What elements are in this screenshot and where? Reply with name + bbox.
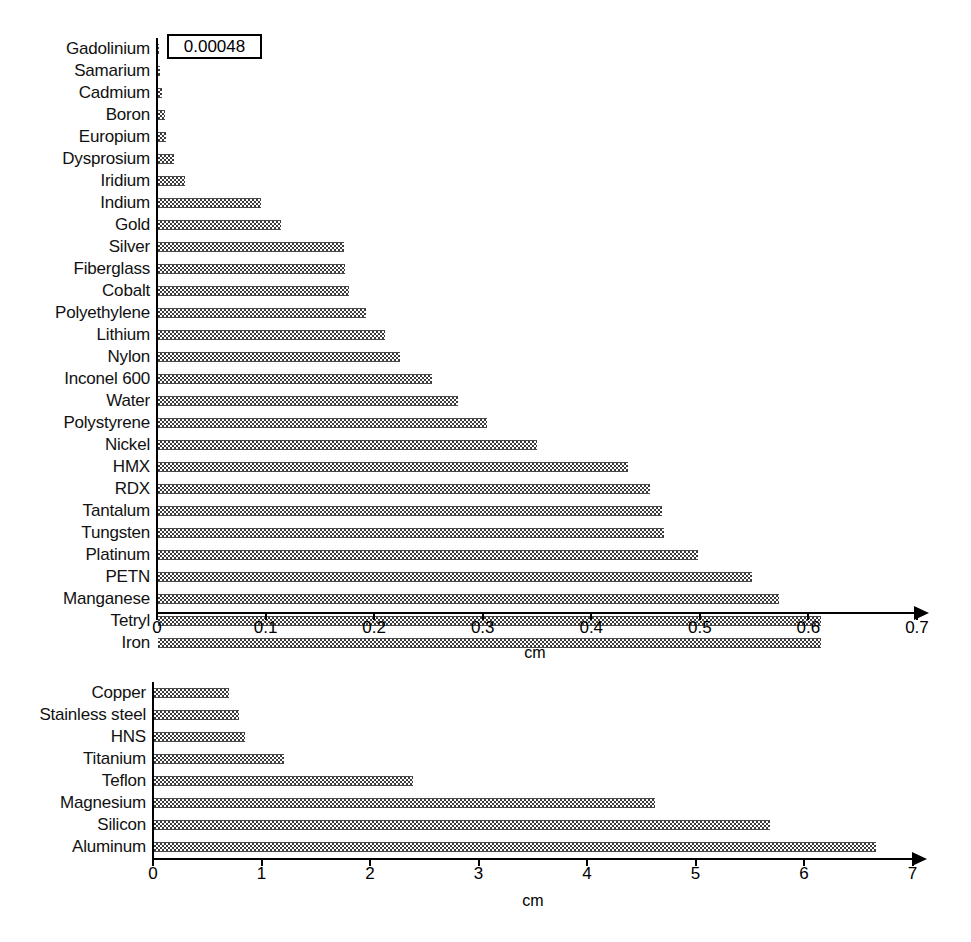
bar — [158, 308, 366, 318]
bar-category-label: Stainless steel — [0, 704, 146, 726]
bar-category-label: Gold — [0, 214, 150, 236]
bar-category-label: HMX — [0, 456, 150, 478]
top-chart-annotation-gadolinium: 0.00048 — [167, 34, 262, 59]
bar — [154, 776, 413, 786]
bar-row: Nylon — [0, 346, 971, 368]
top-chart-x-axis-label: cm — [524, 644, 545, 662]
bar — [154, 732, 245, 742]
bar-row: Inconel 600 — [0, 368, 971, 390]
bar-category-label: PETN — [0, 566, 150, 588]
bar — [158, 330, 385, 340]
bar-row: Iridium — [0, 170, 971, 192]
bar-category-label: Nickel — [0, 434, 150, 456]
x-tick-label: 0.4 — [579, 618, 603, 638]
bar-row: Boron — [0, 104, 971, 126]
x-tick-label: 6 — [799, 864, 808, 884]
bar-row: Indium — [0, 192, 971, 214]
bar-category-label: HNS — [0, 726, 146, 748]
bar-category-label: Aluminum — [0, 836, 146, 858]
bar — [158, 44, 159, 54]
x-tick-label: 0.6 — [797, 618, 821, 638]
bar-category-label: Silicon — [0, 814, 146, 836]
x-tick-label: 0.7 — [905, 618, 929, 638]
bar — [158, 484, 650, 494]
bar — [154, 710, 239, 720]
bar-row: HMX — [0, 456, 971, 478]
bar-row: Silver — [0, 236, 971, 258]
x-tick-label: 5 — [691, 864, 700, 884]
x-tick-label: 1 — [257, 864, 266, 884]
bottom-chart-y-axis — [152, 682, 154, 858]
bar — [154, 798, 655, 808]
bar-category-label: Magnesium — [0, 792, 146, 814]
bar — [158, 110, 165, 120]
bar — [158, 418, 487, 428]
bar-row: Fiberglass — [0, 258, 971, 280]
bar — [158, 220, 281, 230]
bar-row: Cadmium — [0, 82, 971, 104]
bar-category-label: Fiberglass — [0, 258, 150, 280]
x-tick-label: 2 — [365, 864, 374, 884]
bar-category-label: Inconel 600 — [0, 368, 150, 390]
bar — [158, 264, 345, 274]
bar — [158, 506, 662, 516]
bar-row: Stainless steel — [0, 704, 971, 726]
top-chart-y-axis — [156, 38, 158, 612]
bar-row: Nickel — [0, 434, 971, 456]
bar-row: Teflon — [0, 770, 971, 792]
bottom-chart-x-axis — [152, 858, 916, 860]
bar-category-label: Titanium — [0, 748, 146, 770]
bar — [158, 352, 400, 362]
bar-row: Aluminum — [0, 836, 971, 858]
bar — [158, 638, 821, 648]
bar — [158, 528, 664, 538]
bar-category-label: Lithium — [0, 324, 150, 346]
bar — [158, 550, 698, 560]
x-tick-label: 3 — [474, 864, 483, 884]
bar — [158, 462, 628, 472]
bar-category-label: Dysprosium — [0, 148, 150, 170]
top-chart-x-axis — [156, 612, 916, 614]
bar — [158, 198, 261, 208]
dual-bar-chart-figure: GadoliniumSamariumCadmiumBoronEuropiumDy… — [0, 0, 971, 942]
bar-category-label: Manganese — [0, 588, 150, 610]
bar-category-label: Nylon — [0, 346, 150, 368]
bar-category-label: Platinum — [0, 544, 150, 566]
x-tick-label: 0.3 — [471, 618, 495, 638]
x-tick-label: 0 — [152, 618, 161, 638]
x-tick-label: 7 — [908, 864, 917, 884]
x-tick-label: 0.1 — [254, 618, 278, 638]
bar-row: Titanium — [0, 748, 971, 770]
bar-category-label: Samarium — [0, 60, 150, 82]
bar-category-label: Iridium — [0, 170, 150, 192]
bar-category-label: Indium — [0, 192, 150, 214]
bar-row: Platinum — [0, 544, 971, 566]
bar — [154, 842, 876, 852]
bar — [158, 154, 174, 164]
bar-category-label: Cadmium — [0, 82, 150, 104]
bar-row: Gadolinium — [0, 38, 971, 60]
top-chart-bar-rows: GadoliniumSamariumCadmiumBoronEuropiumDy… — [0, 38, 971, 654]
bottom-chart-x-axis-label: cm — [522, 892, 543, 910]
bar-row: Silicon — [0, 814, 971, 836]
bar-category-label: Polystyrene — [0, 412, 150, 434]
bar-row: Polystyrene — [0, 412, 971, 434]
bar-row: HNS — [0, 726, 971, 748]
bar — [158, 286, 349, 296]
bar-row: Cobalt — [0, 280, 971, 302]
x-tick-label: 0.2 — [362, 618, 386, 638]
bar-category-label: Boron — [0, 104, 150, 126]
bar — [158, 374, 432, 384]
bar-category-label: Tantalum — [0, 500, 150, 522]
bar-row: RDX — [0, 478, 971, 500]
bar — [158, 88, 162, 98]
bar-row: Water — [0, 390, 971, 412]
x-tick-label: 4 — [582, 864, 591, 884]
bar-category-label: Gadolinium — [0, 38, 150, 60]
bar-row: Dysprosium — [0, 148, 971, 170]
bar — [158, 572, 752, 582]
top-chart-panel: GadoliniumSamariumCadmiumBoronEuropiumDy… — [0, 0, 971, 668]
bar — [158, 66, 160, 76]
bar-row: Gold — [0, 214, 971, 236]
bar-row: Europium — [0, 126, 971, 148]
